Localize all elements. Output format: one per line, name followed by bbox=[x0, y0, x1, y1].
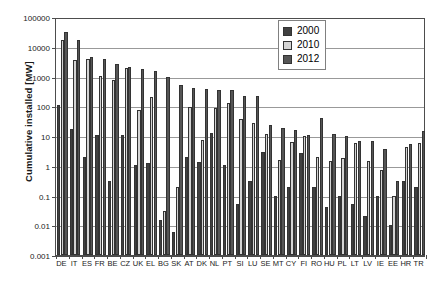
bar-PT-2012 bbox=[230, 90, 233, 255]
y-axis-tick-label: 1000 bbox=[32, 73, 50, 82]
y-tick-mark bbox=[52, 226, 56, 227]
bar-group bbox=[389, 18, 400, 255]
x-axis-label-DE: DE bbox=[56, 259, 66, 268]
y-axis-tick-label: 10000 bbox=[28, 43, 50, 52]
y-axis-tick-label: 1 bbox=[46, 162, 50, 171]
bar-group bbox=[146, 18, 157, 255]
y-tick-mark bbox=[52, 78, 56, 79]
x-tick-mark bbox=[235, 255, 236, 259]
x-axis-label-RO: RO bbox=[311, 259, 322, 268]
x-axis-label-DK: DK bbox=[197, 259, 207, 268]
x-axis-label-IT: IT bbox=[71, 259, 78, 268]
bar-LU-2012 bbox=[256, 96, 259, 255]
bar-group bbox=[83, 18, 94, 255]
y-tick-mark bbox=[52, 48, 56, 49]
bar-group bbox=[363, 18, 374, 255]
bar-RO-2012 bbox=[320, 118, 323, 255]
x-axis-label-BE: BE bbox=[107, 259, 117, 268]
bar-group bbox=[261, 18, 272, 255]
bar-group bbox=[402, 18, 413, 255]
chart-container: Cumulative installed [MW] 0.0010.010.111… bbox=[0, 0, 440, 292]
bar-IE-2012 bbox=[383, 149, 386, 255]
x-axis-label-PT: PT bbox=[222, 259, 232, 268]
y-axis-tick-label: 100000 bbox=[23, 14, 50, 23]
bar-group bbox=[159, 18, 170, 255]
x-axis-label-ES: ES bbox=[82, 259, 92, 268]
x-axis-label-FR: FR bbox=[95, 259, 105, 268]
x-tick-mark bbox=[69, 255, 70, 259]
bar-group bbox=[223, 18, 234, 255]
bar-BE-2012 bbox=[115, 64, 118, 255]
chart-legend: 200020102012 bbox=[278, 20, 326, 70]
x-axis-label-FI: FI bbox=[300, 259, 307, 268]
bar-DK-2012 bbox=[205, 89, 208, 255]
bar-SI-2012 bbox=[243, 96, 246, 255]
bar-group bbox=[351, 18, 362, 255]
bar-HR-2012 bbox=[409, 144, 412, 255]
bar-CZ-2012 bbox=[128, 67, 131, 255]
y-tick-mark bbox=[52, 167, 56, 168]
x-axis-label-NL: NL bbox=[210, 259, 220, 268]
bar-group bbox=[210, 18, 221, 255]
bar-group bbox=[172, 18, 183, 255]
x-axis-label-BG: BG bbox=[158, 259, 169, 268]
bar-group bbox=[134, 18, 145, 255]
x-axis-label-SE: SE bbox=[261, 259, 271, 268]
x-axis-label-EL: EL bbox=[146, 259, 155, 268]
x-tick-mark bbox=[426, 255, 427, 259]
x-axis-label-HR: HR bbox=[400, 259, 411, 268]
x-axis-label-HU: HU bbox=[324, 259, 335, 268]
x-axis-label-LU: LU bbox=[248, 259, 258, 268]
bar-group bbox=[376, 18, 387, 255]
y-axis-tick-label: 10 bbox=[41, 133, 50, 142]
legend-label: 2012 bbox=[297, 54, 319, 64]
plot-area: 0.0010.010.1110100100010000100000 bbox=[55, 18, 425, 256]
bar-HU-2012 bbox=[332, 134, 335, 255]
bar-CY-2012 bbox=[294, 130, 297, 255]
bar-group bbox=[121, 18, 132, 255]
bar-LV-2012 bbox=[371, 141, 374, 255]
bar-FI-2012 bbox=[307, 135, 310, 255]
bar-LT-2012 bbox=[358, 141, 361, 255]
bar-DE-2012 bbox=[64, 32, 67, 255]
x-axis-label-IE: IE bbox=[377, 259, 384, 268]
bar-MT-2012 bbox=[281, 128, 284, 255]
x-axis-label-PL: PL bbox=[337, 259, 346, 268]
y-axis-title: Cumulative installed [MW] bbox=[23, 32, 34, 212]
bar-ES-2012 bbox=[90, 57, 93, 255]
bar-PL-2012 bbox=[345, 136, 348, 255]
x-axis-label-SK: SK bbox=[171, 259, 181, 268]
x-axis-label-TR: TR bbox=[414, 259, 424, 268]
bar-NL-2012 bbox=[217, 90, 220, 255]
x-axis-label-EE: EE bbox=[388, 259, 398, 268]
legend-swatch-icon bbox=[283, 41, 292, 50]
bar-EL-2012 bbox=[154, 71, 157, 255]
bar-group bbox=[414, 18, 425, 255]
bar-TR-2012 bbox=[422, 131, 425, 255]
legend-item-2010: 2010 bbox=[283, 38, 319, 52]
bar-group bbox=[197, 18, 208, 255]
bar-group bbox=[338, 18, 349, 255]
legend-swatch-icon bbox=[283, 27, 292, 36]
legend-label: 2000 bbox=[297, 26, 319, 36]
x-axis-label-AT: AT bbox=[184, 259, 193, 268]
bar-EE-2012 bbox=[396, 181, 399, 255]
bar-SE-2012 bbox=[269, 125, 272, 255]
x-axis-label-SI: SI bbox=[236, 259, 243, 268]
bar-group bbox=[108, 18, 119, 255]
legend-label: 2010 bbox=[297, 40, 319, 50]
bar-IT-2012 bbox=[77, 40, 80, 255]
x-axis-label-CY: CY bbox=[286, 259, 296, 268]
x-axis-label-MT: MT bbox=[273, 259, 284, 268]
y-axis-tick-label: 0.01 bbox=[34, 222, 50, 231]
x-axis-label-LT: LT bbox=[351, 259, 359, 268]
bar-group bbox=[236, 18, 247, 255]
bar-group bbox=[185, 18, 196, 255]
legend-item-2000: 2000 bbox=[283, 24, 319, 38]
bar-AT-2012 bbox=[192, 88, 195, 255]
y-tick-mark bbox=[52, 107, 56, 108]
bar-group bbox=[248, 18, 259, 255]
x-axis-label-LV: LV bbox=[363, 259, 372, 268]
bar-group bbox=[95, 18, 106, 255]
x-tick-mark bbox=[375, 255, 376, 259]
